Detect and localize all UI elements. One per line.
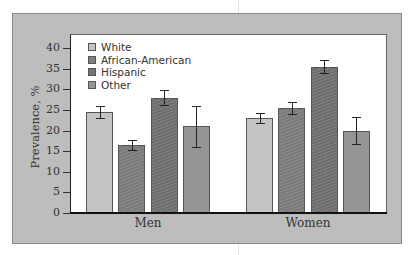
y-tick (63, 213, 70, 214)
legend: White African-American Hispanic Other (88, 41, 191, 91)
error-bar-cap (256, 123, 265, 124)
error-bar-cap (128, 140, 137, 141)
legend-swatch-white (88, 43, 96, 51)
x-axis-line (70, 212, 387, 214)
legend-item-hispanic: Hispanic (88, 66, 191, 79)
bar-men-white (86, 112, 113, 213)
bar-women-white (246, 118, 273, 213)
legend-swatch-african-american (88, 56, 96, 64)
error-bar (356, 117, 357, 143)
bar-women-hispanic (311, 67, 338, 213)
error-bar-cap (96, 118, 105, 119)
y-tick-label: 5 (34, 186, 60, 197)
x-label-men: Men (108, 216, 188, 230)
error-bar-cap (96, 106, 105, 107)
legend-label-other: Other (101, 79, 131, 91)
error-bar-cap (192, 147, 201, 148)
y-tick (63, 89, 70, 90)
y-tick (63, 151, 70, 152)
error-bar-cap (352, 144, 361, 145)
legend-label-african-american: African-American (101, 54, 191, 66)
error-bar-cap (352, 117, 361, 118)
error-bar-cap (160, 105, 169, 106)
error-bar (164, 90, 165, 105)
x-label-women: Women (268, 216, 348, 230)
legend-swatch-hispanic (88, 68, 96, 76)
y-tick-label: 0 (34, 207, 60, 218)
error-bar (132, 140, 133, 150)
y-tick (63, 131, 70, 132)
y-tick (63, 192, 70, 193)
error-bar-cap (288, 102, 297, 103)
bar-men-hispanic (151, 98, 178, 214)
error-bar (292, 102, 293, 114)
y-tick (63, 69, 70, 70)
error-bar (260, 113, 261, 123)
legend-label-hispanic: Hispanic (101, 66, 146, 78)
y-tick-label: 40 (34, 42, 60, 53)
error-bar-cap (256, 113, 265, 114)
legend-item-other: Other (88, 79, 191, 92)
error-bar (324, 60, 325, 72)
y-tick-label: 35 (34, 63, 60, 74)
legend-item-african-american: African-American (88, 54, 191, 67)
error-bar-cap (192, 106, 201, 107)
legend-swatch-other (88, 81, 96, 89)
y-tick (63, 110, 70, 111)
bar-men-african-american (118, 145, 145, 213)
y-tick (63, 172, 70, 173)
legend-item-white: White (88, 41, 191, 54)
legend-label-white: White (101, 41, 132, 53)
y-tick (63, 48, 70, 49)
error-bar-cap (288, 114, 297, 115)
bar-women-african-american (278, 108, 305, 213)
error-bar-cap (320, 60, 329, 61)
y-axis-title: Prevalence, % (28, 82, 42, 172)
error-bar-cap (128, 150, 137, 151)
error-bar (196, 106, 197, 147)
error-bar (100, 106, 101, 118)
error-bar-cap (320, 73, 329, 74)
